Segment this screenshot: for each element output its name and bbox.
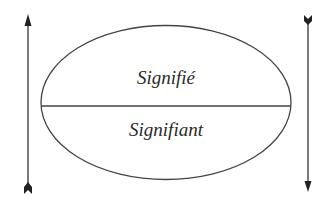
sign-ellipse <box>41 26 291 180</box>
sign-diagram: Signifié Signifiant <box>0 0 332 203</box>
down-arrow-icon <box>304 15 312 192</box>
signifier-label: Signifiant <box>129 119 204 140</box>
up-arrow-icon <box>24 14 32 194</box>
signified-label: Signifié <box>137 67 197 88</box>
